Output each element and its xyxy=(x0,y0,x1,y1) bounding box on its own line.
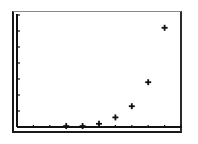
plus-marker-icon xyxy=(129,103,135,109)
plus-marker-icon xyxy=(63,123,69,129)
plus-marker-icon xyxy=(80,123,86,129)
plus-marker-icon xyxy=(162,25,168,31)
axis-ticks xyxy=(17,15,181,127)
data-points xyxy=(63,25,167,129)
axes xyxy=(17,14,182,127)
plus-marker-icon xyxy=(96,121,102,127)
plus-marker-icon xyxy=(145,79,151,85)
plus-marker-icon xyxy=(112,114,118,120)
scatter-plot xyxy=(0,0,198,144)
